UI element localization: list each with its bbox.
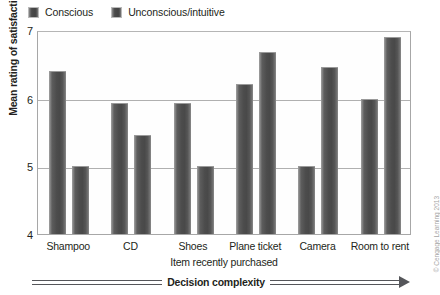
bar bbox=[361, 99, 378, 234]
legend-entry-conscious: Conscious bbox=[28, 6, 93, 18]
bar-group bbox=[100, 32, 162, 234]
bar-group bbox=[225, 32, 287, 234]
bar bbox=[111, 103, 128, 234]
decision-complexity-label: Decision complexity bbox=[167, 276, 265, 288]
bar-group bbox=[287, 32, 349, 234]
arrow-line-right bbox=[270, 280, 400, 285]
x-tick-label: CD bbox=[99, 240, 161, 252]
legend-swatch-icon bbox=[111, 7, 122, 18]
credit-line: © Cengage Learning 2013 bbox=[433, 196, 440, 272]
bar-group bbox=[38, 32, 100, 234]
bar bbox=[134, 135, 151, 234]
legend-entry-unconscious: Unconscious/intuitive bbox=[111, 6, 225, 18]
y-tick-label-7: 7 bbox=[20, 25, 33, 37]
bar-group bbox=[163, 32, 225, 234]
x-tick-label: Shoes bbox=[162, 240, 224, 252]
legend-swatch-icon bbox=[28, 7, 39, 18]
bars-container bbox=[38, 32, 410, 234]
bar bbox=[321, 67, 338, 234]
bar bbox=[72, 166, 89, 234]
x-tick-label: Shampoo bbox=[37, 240, 99, 252]
bar bbox=[384, 37, 401, 234]
arrow-line-left bbox=[32, 280, 162, 285]
chart-plot-area bbox=[37, 31, 411, 235]
bar bbox=[174, 103, 191, 234]
bar bbox=[259, 52, 276, 234]
x-axis-title: Item recently purchased bbox=[37, 256, 411, 268]
legend-label-unconscious: Unconscious/intuitive bbox=[128, 6, 225, 18]
x-tick-label: Camera bbox=[286, 240, 348, 252]
decision-complexity-annotation: Decision complexity bbox=[32, 274, 410, 290]
bar bbox=[298, 166, 315, 234]
bar bbox=[236, 84, 253, 234]
y-tick-label-6: 6 bbox=[20, 94, 33, 106]
legend-label-conscious: Conscious bbox=[45, 6, 93, 18]
bar bbox=[49, 71, 66, 234]
y-tick-label-4: 4 bbox=[20, 229, 33, 241]
x-tick-label: Room to rent bbox=[349, 240, 411, 252]
y-axis-title: Mean rating of satisfaction bbox=[7, 0, 19, 142]
bar-group bbox=[350, 32, 412, 234]
chart-legend: Conscious Unconscious/intuitive bbox=[0, 2, 434, 22]
y-tick-label-5: 5 bbox=[20, 161, 33, 173]
right-arrow-icon bbox=[399, 276, 410, 288]
bar bbox=[197, 166, 214, 234]
x-tick-label: Plane ticket bbox=[224, 240, 286, 252]
